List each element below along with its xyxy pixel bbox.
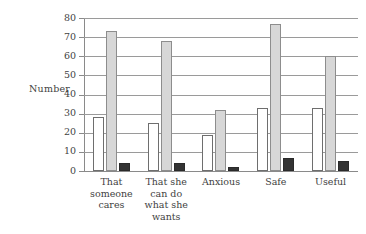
- bar-group: [139, 18, 194, 171]
- bar-dark: [119, 163, 130, 171]
- bar-group: [248, 18, 303, 171]
- x-axis-label-line: wants: [139, 211, 194, 223]
- bar-white: [257, 108, 268, 171]
- bar-group: [303, 18, 358, 171]
- bar-dark: [283, 158, 294, 171]
- bar-gray: [106, 31, 117, 171]
- x-axis-label: Anxious: [194, 176, 249, 188]
- y-tick-label-60: 60: [52, 51, 76, 61]
- bar-gray: [270, 24, 281, 171]
- bar-white: [202, 135, 213, 171]
- bar-white: [148, 123, 159, 171]
- bar-group: [84, 18, 139, 171]
- bar-gray: [161, 41, 172, 171]
- bar-group: [194, 18, 249, 171]
- y-tick-label-30: 30: [52, 108, 76, 118]
- y-tick-label-0: 0: [52, 166, 76, 176]
- x-axis-label: That shecan dowhat shewants: [139, 176, 194, 222]
- gridline-0: [84, 171, 358, 172]
- x-axis-label-line: Anxious: [194, 176, 249, 188]
- x-axis-label: Thatsomeonecares: [84, 176, 139, 211]
- plot-area: [84, 18, 358, 171]
- x-axis-label: Useful: [303, 176, 358, 188]
- y-tick-label-70: 70: [52, 32, 76, 42]
- y-tick-label-80: 80: [52, 13, 76, 23]
- bar-white: [312, 108, 323, 171]
- x-axis-label: Safe: [248, 176, 303, 188]
- y-tick-label-20: 20: [52, 127, 76, 137]
- x-axis-category-labels: ThatsomeonecaresThat shecan dowhat shewa…: [84, 176, 358, 232]
- bar-dark: [338, 161, 349, 171]
- bar-gray: [215, 110, 226, 171]
- y-tick-label-50: 50: [52, 70, 76, 80]
- x-axis-label-line: someone: [84, 188, 139, 200]
- y-tick-label-40: 40: [52, 89, 76, 99]
- x-axis-label-line: That she: [139, 176, 194, 188]
- x-axis-label-line: Useful: [303, 176, 358, 188]
- bar-gray: [325, 56, 336, 171]
- y-tick-label-10: 10: [52, 146, 76, 156]
- x-axis-label-line: Safe: [248, 176, 303, 188]
- x-axis-label-line: can do: [139, 188, 194, 200]
- bar-chart-figure: Number 01020304050607080 Thatsomeonecare…: [0, 0, 366, 234]
- bar-white: [93, 117, 104, 171]
- x-axis-label-line: cares: [84, 199, 139, 211]
- x-axis-label-line: what she: [139, 199, 194, 211]
- bar-dark: [174, 163, 185, 171]
- x-axis-label-line: That: [84, 176, 139, 188]
- bar-dark: [228, 167, 239, 171]
